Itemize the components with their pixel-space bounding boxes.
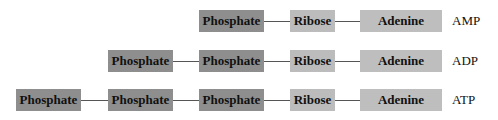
bond-line <box>264 100 290 101</box>
amp-row: Phosphate Ribose Adenine AMP <box>0 10 498 32</box>
phosphate-box: Phosphate <box>108 50 173 72</box>
adp-row: Phosphate Phosphate Ribose Adenine ADP <box>0 50 498 72</box>
bond-line <box>264 21 290 22</box>
bond-line <box>81 100 108 101</box>
phosphate-box: Phosphate <box>199 10 264 32</box>
amp-label: AMP <box>452 10 480 32</box>
phosphate-box: Phosphate <box>199 89 264 111</box>
ribose-box: Ribose <box>290 50 335 72</box>
adenine-box: Adenine <box>360 50 442 72</box>
atp-label: ATP <box>452 89 475 111</box>
phosphate-box: Phosphate <box>16 89 81 111</box>
ribose-box: Ribose <box>290 10 335 32</box>
adp-label: ADP <box>452 50 478 72</box>
bond-line <box>335 100 360 101</box>
phosphate-box: Phosphate <box>108 89 173 111</box>
ribose-box: Ribose <box>290 89 335 111</box>
adenine-box: Adenine <box>360 10 442 32</box>
bond-line <box>335 21 360 22</box>
bond-line <box>335 61 360 62</box>
atp-row: Phosphate Phosphate Phosphate Ribose Ade… <box>0 89 498 111</box>
adenine-box: Adenine <box>360 89 442 111</box>
bond-line <box>173 61 199 62</box>
phosphate-box: Phosphate <box>199 50 264 72</box>
bond-line <box>264 61 290 62</box>
bond-line <box>173 100 199 101</box>
